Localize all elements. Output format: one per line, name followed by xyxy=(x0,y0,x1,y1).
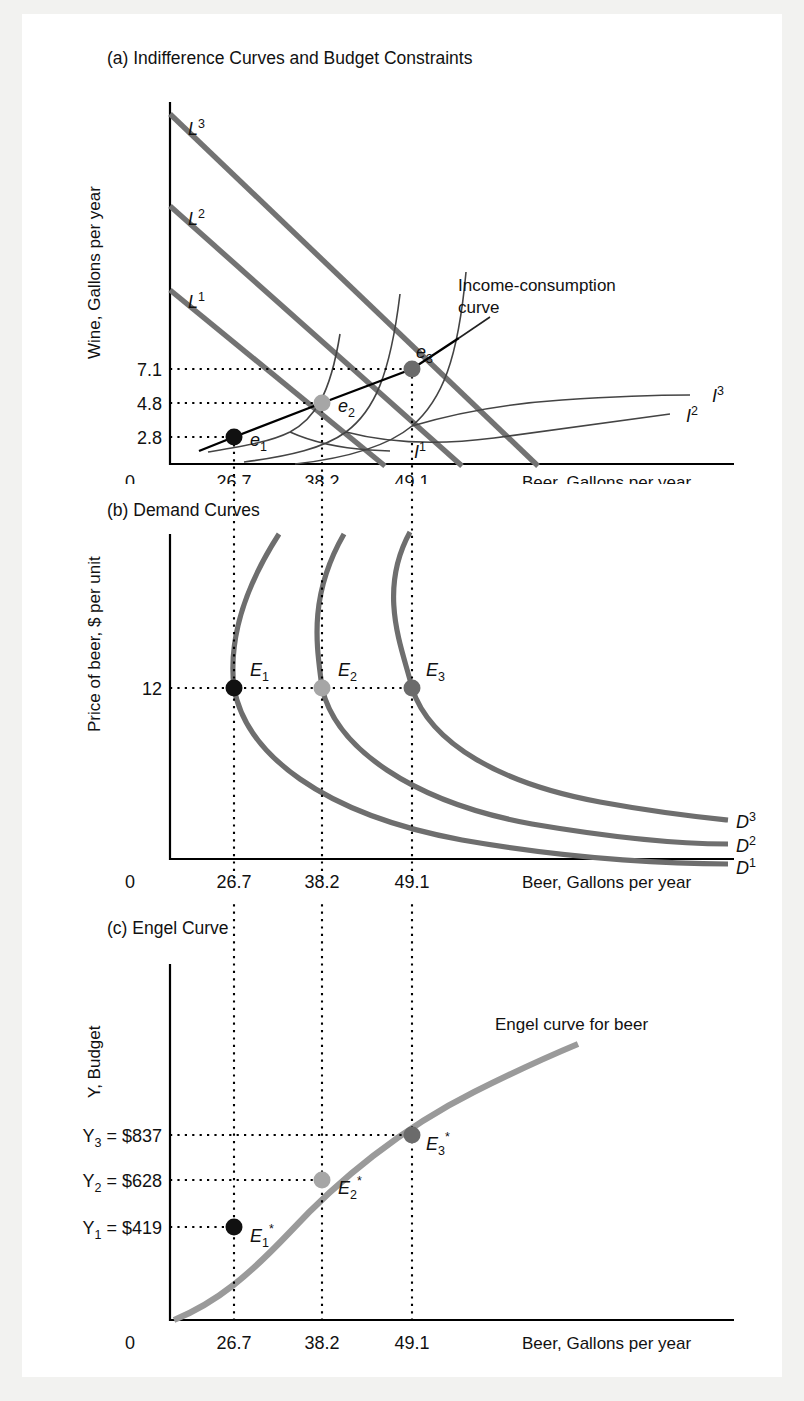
panel-c-ytick-628: Y2 = $628 xyxy=(82,1171,162,1195)
panel-c-origin: 0 xyxy=(125,1333,135,1353)
income-consumption-annotation-line1: Income-consumption xyxy=(458,276,616,295)
point-E1-star xyxy=(226,1219,243,1236)
indifference-curve-2-label: I2 xyxy=(686,404,698,426)
panel-c-xtick-49-1: 49.1 xyxy=(394,1333,429,1353)
demand-curve-1-label: D1 xyxy=(736,856,756,878)
point-e3 xyxy=(404,361,421,378)
annotation-leader xyxy=(459,317,490,338)
panel-a-x-axis-label: Beer, Gallons per year xyxy=(522,473,691,484)
figure-card: (a) Indifference Curves and Budget Const… xyxy=(22,14,782,1377)
demand-curve-2-label: D2 xyxy=(736,834,756,856)
point-E2 xyxy=(314,680,331,697)
panel-c-title: (c) Engel Curve xyxy=(107,918,229,938)
panel-a-ytick-4-8: 4.8 xyxy=(137,394,162,414)
panel-a-xtick-38-2: 38.2 xyxy=(304,472,339,484)
panel-b: (b) Demand Curves Price of beer, $ per u… xyxy=(22,484,782,904)
panel-a-ytick-7-1: 7.1 xyxy=(137,360,162,380)
panel-b-xtick-26-7: 26.7 xyxy=(216,872,251,892)
point-E3-star-label: E3* xyxy=(426,1130,450,1158)
panel-c: (c) Engel Curve Y, Budget E1* E2* E3* En… xyxy=(22,902,782,1377)
engel-curve-annotation: Engel curve for beer xyxy=(495,1015,648,1034)
point-E1-label: E1 xyxy=(250,660,269,684)
point-e1 xyxy=(226,429,243,446)
indifference-curve-3-right xyxy=(412,395,690,426)
indifference-curve-1-label: I1 xyxy=(414,440,426,462)
point-e2 xyxy=(314,395,331,412)
point-E1 xyxy=(226,680,243,697)
point-E3-label: E3 xyxy=(426,660,445,684)
panel-b-origin: 0 xyxy=(125,872,135,892)
panel-c-ytick-837: Y3 = $837 xyxy=(82,1126,162,1150)
point-e1-label: e1 xyxy=(250,430,267,454)
panel-c-xtick-26-7: 26.7 xyxy=(216,1333,251,1353)
panel-a-y-axis-label: Wine, Gallons per year xyxy=(85,186,104,359)
panel-a-ytick-2-8: 2.8 xyxy=(137,428,162,448)
demand-curve-3-label: D3 xyxy=(736,810,756,832)
indifference-curve-2 xyxy=(244,294,400,462)
panel-b-ytick-12: 12 xyxy=(142,679,162,699)
panel-c-y-axis-label: Y, Budget xyxy=(85,1025,104,1098)
panel-c-xtick-38-2: 38.2 xyxy=(304,1333,339,1353)
panel-a: (a) Indifference Curves and Budget Const… xyxy=(22,14,782,484)
budget-line-3-label: L3 xyxy=(188,117,205,139)
panel-b-title: (b) Demand Curves xyxy=(107,500,260,520)
indifference-curve-1-right xyxy=(290,432,390,451)
panel-b-xtick-49-1: 49.1 xyxy=(394,872,429,892)
panel-b-x-axis-label: Beer, Gallons per year xyxy=(522,873,691,892)
point-E2-star xyxy=(314,1172,331,1189)
indifference-curve-3 xyxy=(295,272,466,464)
point-E3 xyxy=(404,680,421,697)
budget-line-2-label: L2 xyxy=(188,207,205,229)
engel-curve xyxy=(174,1044,578,1320)
panel-b-y-axis-label: Price of beer, $ per unit xyxy=(85,556,104,732)
income-consumption-annotation-line2: curve xyxy=(458,298,500,317)
point-E3-star xyxy=(404,1127,421,1144)
figure-page: (a) Indifference Curves and Budget Const… xyxy=(0,0,804,1401)
panel-c-x-axis-label: Beer, Gallons per year xyxy=(522,1334,691,1353)
point-e3-label: e3 xyxy=(416,342,433,366)
panel-a-origin: 0 xyxy=(125,472,135,484)
point-E2-label: E2 xyxy=(338,660,357,684)
point-E1-star-label: E1* xyxy=(250,1222,274,1250)
budget-line-1 xyxy=(170,290,385,466)
panel-c-ytick-419: Y1 = $419 xyxy=(82,1218,162,1242)
budget-line-2 xyxy=(170,206,462,466)
panel-a-xtick-49-1: 49.1 xyxy=(394,472,429,484)
point-E2-star-label: E2* xyxy=(338,1174,362,1202)
panel-a-title: (a) Indifference Curves and Budget Const… xyxy=(107,48,473,68)
point-e2-label: e2 xyxy=(338,396,355,420)
budget-line-1-label: L1 xyxy=(188,290,205,312)
indifference-curve-3-label: I3 xyxy=(712,384,724,406)
panel-a-xtick-26-7: 26.7 xyxy=(216,472,251,484)
panel-b-xtick-38-2: 38.2 xyxy=(304,872,339,892)
